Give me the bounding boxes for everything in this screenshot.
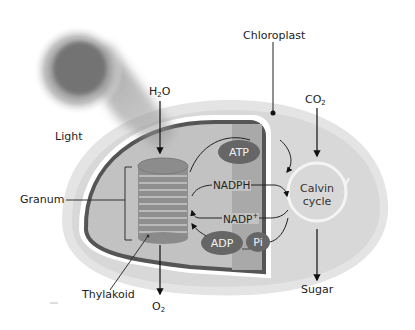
chloroplast-label: Chloroplast	[243, 30, 305, 41]
nadp-label: NADP+	[222, 213, 259, 224]
pi-label: Pi	[246, 237, 270, 248]
nadph-label: NADPH	[212, 180, 251, 191]
nadp-sup: +	[252, 212, 258, 220]
co2-sub: 2	[321, 99, 325, 107]
nadp-main: NADP	[223, 213, 252, 225]
adp-label: ADP	[201, 238, 243, 249]
atp-label: ATP	[218, 147, 260, 158]
co2-label: CO2	[305, 94, 326, 107]
chloroplast-diagram	[0, 0, 415, 330]
light-label: Light	[55, 131, 82, 142]
o2-label: O2	[152, 301, 165, 314]
sugar-label: Sugar	[301, 284, 333, 295]
calvin-line1: Calvin	[296, 182, 338, 195]
h2o-o: O	[162, 85, 171, 98]
granum-stack	[138, 158, 188, 244]
h2o-label: H2O	[149, 86, 170, 99]
granum-label: Granum	[20, 194, 64, 205]
o2-sub: 2	[161, 306, 165, 314]
thylakoid-label: Thylakoid	[82, 289, 135, 300]
co2-co: CO	[305, 93, 321, 106]
calvin-cycle-label: Calvin cycle	[296, 182, 338, 208]
o2-o: O	[152, 300, 161, 313]
calvin-line2: cycle	[296, 195, 338, 208]
